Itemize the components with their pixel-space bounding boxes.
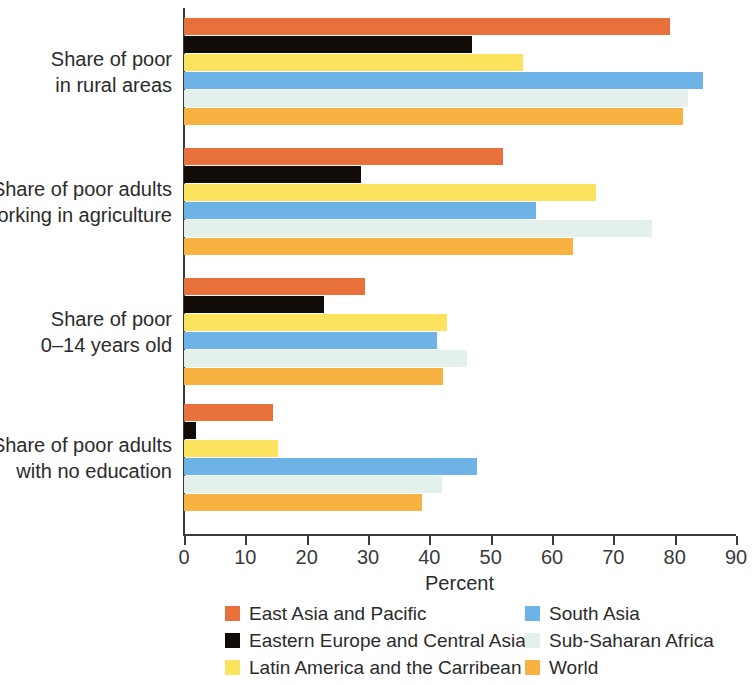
x-axis-tick-label: 90	[713, 546, 752, 569]
bar	[184, 458, 477, 475]
x-axis-tick	[736, 536, 738, 545]
x-axis-tick	[245, 536, 247, 545]
legend-label: South Asia	[549, 603, 640, 625]
bar	[184, 494, 422, 511]
category-label: Share of poorin rural areas	[0, 46, 172, 98]
bar	[184, 166, 361, 183]
x-axis-tick	[429, 536, 431, 545]
x-axis-tick-label: 70	[590, 546, 636, 569]
bar	[184, 18, 670, 35]
legend-label: East Asia and Pacific	[249, 603, 426, 625]
chart-legend: East Asia and PacificEastern Europe and …	[225, 600, 745, 682]
category-label-line: Share of poor adults	[0, 176, 172, 202]
x-axis-tick-label: 50	[468, 546, 514, 569]
category-label-line: Share of poor	[0, 46, 172, 72]
x-axis-tick-label: 60	[529, 546, 575, 569]
x-axis-tick	[613, 536, 615, 545]
category-label-line: Share of poor	[0, 306, 172, 332]
bar	[184, 202, 536, 219]
category-label: Share of poor0–14 years old	[0, 306, 172, 358]
bar-group	[184, 404, 736, 512]
legend-label: Sub-Saharan Africa	[549, 630, 714, 652]
bar	[184, 238, 573, 255]
category-label-line: 0–14 years old	[0, 332, 172, 358]
bar	[184, 476, 442, 493]
legend-item[interactable]: East Asia and Pacific	[225, 600, 526, 627]
bar-group	[184, 148, 736, 256]
legend-item[interactable]: South Asia	[525, 600, 714, 627]
x-axis-tick	[307, 536, 309, 545]
bar	[184, 404, 273, 421]
bar	[184, 422, 196, 439]
legend-swatch-icon	[525, 633, 540, 648]
x-axis-tick-label: 30	[345, 546, 391, 569]
bar	[184, 108, 683, 125]
x-axis-tick-label: 40	[406, 546, 452, 569]
legend-swatch-icon	[225, 660, 240, 675]
legend-item[interactable]: Latin America and the Carribean	[225, 654, 526, 681]
bar	[184, 440, 278, 457]
category-label: Share of poor adultsworking in agricultu…	[0, 176, 172, 228]
legend-item[interactable]: Sub-Saharan Africa	[525, 627, 714, 654]
x-axis-line	[183, 534, 736, 536]
legend-label: Latin America and the Carribean	[249, 657, 522, 679]
x-axis-tick-label: 20	[284, 546, 330, 569]
x-axis-tick-label: 0	[161, 546, 207, 569]
legend-swatch-icon	[525, 606, 540, 621]
bar	[184, 90, 688, 107]
bar	[184, 184, 596, 201]
category-label: Share of poor adultswith no education	[0, 432, 172, 484]
bar	[184, 296, 324, 313]
bar-group	[184, 18, 736, 126]
legend-label: Eastern Europe and Central Asia	[249, 630, 526, 652]
bar	[184, 54, 523, 71]
bar-group	[184, 278, 736, 386]
x-axis-tick-label: 10	[222, 546, 268, 569]
legend-column-right: South AsiaSub-Saharan AfricaWorld	[525, 600, 714, 681]
category-label-line: with no education	[0, 458, 172, 484]
bar	[184, 148, 503, 165]
bar	[184, 36, 472, 53]
legend-item[interactable]: World	[525, 654, 714, 681]
category-label-line: working in agriculture	[0, 202, 172, 228]
bar-chart: Share of poorin rural areasShare of poor…	[0, 0, 752, 685]
legend-swatch-icon	[225, 633, 240, 648]
legend-item[interactable]: Eastern Europe and Central Asia	[225, 627, 526, 654]
category-label-line: Share of poor adults	[0, 432, 172, 458]
x-axis-tick	[552, 536, 554, 545]
legend-label: World	[549, 657, 598, 679]
bar	[184, 314, 447, 331]
bar	[184, 350, 467, 367]
x-axis-tick	[184, 536, 186, 545]
bar	[184, 278, 365, 295]
bar	[184, 332, 437, 349]
legend-swatch-icon	[225, 606, 240, 621]
x-axis-tick	[368, 536, 370, 545]
category-label-line: in rural areas	[0, 72, 172, 98]
x-axis-tick	[675, 536, 677, 545]
x-axis-title: Percent	[183, 572, 736, 595]
bar	[184, 368, 443, 385]
bar	[184, 220, 652, 237]
legend-column-left: East Asia and PacificEastern Europe and …	[225, 600, 526, 681]
x-axis-tick	[491, 536, 493, 545]
x-axis-tick-label: 80	[652, 546, 698, 569]
bar	[184, 72, 703, 89]
legend-swatch-icon	[525, 660, 540, 675]
